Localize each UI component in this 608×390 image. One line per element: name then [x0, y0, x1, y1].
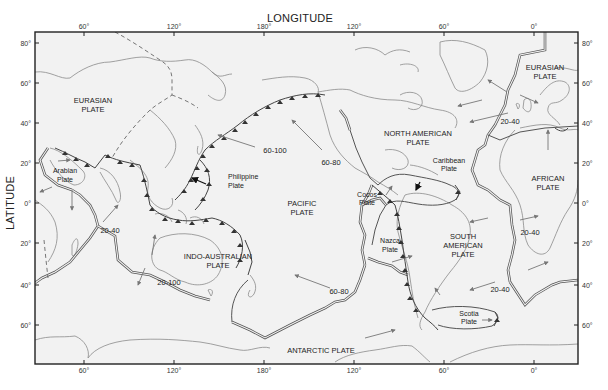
left-tick-label: 60°	[20, 80, 31, 87]
left-tick-label: 40°	[20, 120, 31, 127]
rate-label-pacific-ne: 60-80	[321, 158, 340, 167]
rate-label-pacific-nw: 60-100	[263, 146, 286, 155]
right-tick-label: 60°	[582, 322, 593, 329]
label-pacific-plate: PACIFICPLATE	[287, 199, 317, 217]
bottom-tick-label: 60°	[439, 367, 450, 374]
rate-label-indian-ocean: 20-40	[100, 226, 119, 235]
rate-label-south-atlantic-s: 20-40	[490, 285, 509, 294]
left-tick-label: 40°	[20, 282, 31, 289]
left-tick-label: 20°	[20, 160, 31, 167]
rate-label-north-atlantic: 20-40	[500, 117, 519, 126]
right-tick-label: 20°	[582, 160, 593, 167]
top-tick-label: 60°	[79, 23, 90, 30]
right-tick-label: 80°	[582, 40, 593, 47]
label-cocos-plate: CocosPlate	[357, 191, 377, 206]
latitude-axis-title: LATITUDE	[4, 176, 16, 230]
right-tick-label: 40°	[582, 120, 593, 127]
bottom-tick-label: 120°	[167, 367, 182, 374]
longitude-axis-title: LONGITUDE	[267, 12, 333, 24]
rate-label-pacific-s: 60-80	[329, 287, 348, 296]
label-scotia-plate: ScotiaPlate	[459, 310, 479, 325]
right-tick-label: 40°	[582, 282, 593, 289]
top-tick-label: 60°	[439, 23, 450, 30]
right-tick-label: 60°	[582, 80, 593, 87]
top-tick-label: 120°	[347, 23, 362, 30]
rate-label-south-atlantic-e: 20-40	[520, 228, 539, 237]
right-tick-label: 20°	[582, 240, 593, 247]
bottom-tick-label: 120°	[347, 367, 362, 374]
top-tick-label: 180°	[257, 23, 272, 30]
rate-label-indo-australian-s: 20-100	[157, 278, 180, 287]
right-tick-label: 0°	[582, 200, 589, 207]
left-tick-label: 0°	[24, 200, 31, 207]
bottom-tick-label: 60°	[79, 367, 90, 374]
bottom-tick-label: 0°	[531, 367, 538, 374]
left-tick-label: 20°	[20, 240, 31, 247]
label-african-plate: AFRICANPLATE	[532, 174, 565, 192]
label-antarctic-plate: ANTARCTIC PLATE	[287, 346, 355, 355]
top-tick-label: 0°	[531, 23, 538, 30]
top-tick-label: 120°	[167, 23, 182, 30]
left-tick-label: 80°	[20, 40, 31, 47]
left-tick-label: 60°	[20, 322, 31, 329]
tectonic-plate-map: LONGITUDE LATITUDE	[0, 0, 608, 390]
bottom-tick-label: 180°	[257, 367, 272, 374]
